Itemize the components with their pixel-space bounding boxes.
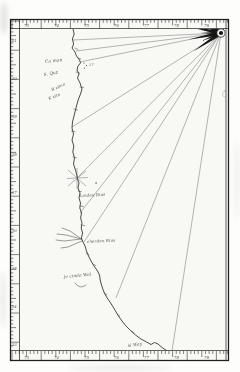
scale-number: 76 bbox=[114, 355, 120, 360]
scale-number: 79 bbox=[204, 355, 210, 360]
scale-number: 74 bbox=[54, 355, 60, 360]
scale-number: 37 bbox=[12, 190, 18, 195]
scale-number: 73 bbox=[24, 23, 30, 28]
scale-number: 33 bbox=[12, 342, 18, 347]
scanned-map-sheet: 7374757677787973747576777879414039383736… bbox=[0, 0, 240, 372]
scale-number: 78 bbox=[174, 355, 180, 360]
scale-number: 74 bbox=[54, 23, 60, 28]
scale-number: 77 bbox=[144, 355, 150, 360]
scale-number: 78 bbox=[174, 23, 180, 28]
scale-number: 73 bbox=[24, 355, 30, 360]
scale-number: 76 bbox=[114, 23, 120, 28]
antique-nautical-chart: 7374757677787973747576777879414039383736… bbox=[0, 0, 240, 372]
scale-number: 36 bbox=[12, 228, 18, 233]
scale-number: 39 bbox=[12, 114, 18, 119]
scale-number: 79 bbox=[204, 23, 210, 28]
place-name-label: 17 bbox=[89, 63, 94, 67]
scale-number: 75 bbox=[84, 355, 90, 360]
chart-paper bbox=[11, 20, 229, 361]
compass-hub-dot bbox=[219, 31, 223, 35]
scale-number: 35 bbox=[12, 266, 18, 271]
scale-number: 40 bbox=[11, 76, 18, 81]
scale-number: 34 bbox=[12, 304, 18, 309]
scale-number: 75 bbox=[84, 23, 90, 28]
scale-number: 38 bbox=[12, 152, 18, 157]
scale-number: 41 bbox=[11, 38, 17, 43]
scale-number: 77 bbox=[144, 23, 150, 28]
